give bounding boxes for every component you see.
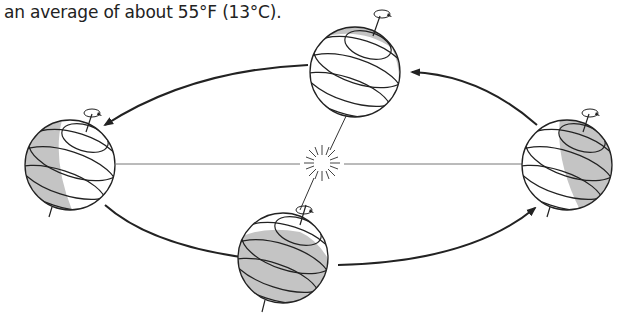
- arrow-bottom-to-right: [338, 208, 535, 265]
- globe-top: [293, 10, 413, 127]
- rotation-arrow-icon: [84, 109, 102, 117]
- orbit-diagram: [0, 0, 623, 315]
- globe-left: [8, 109, 128, 220]
- globe-bottom: [221, 205, 341, 313]
- sun-icon: [304, 145, 340, 181]
- arrow-left-to-bottom: [105, 205, 248, 258]
- axis-line: [300, 112, 348, 210]
- globe-right: [505, 109, 623, 220]
- arrow-top-to-left: [105, 65, 308, 125]
- rotation-arrow-icon: [582, 109, 600, 117]
- rotation-arrow-icon: [374, 10, 392, 18]
- arrow-right-to-top: [412, 72, 537, 125]
